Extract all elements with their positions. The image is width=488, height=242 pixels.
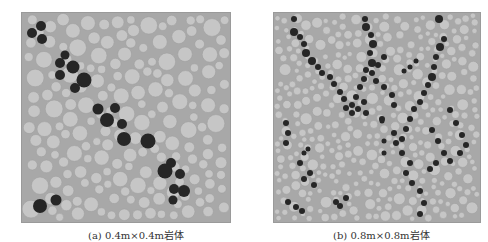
particle-packing-b	[274, 13, 480, 222]
caption-a: (a) 0.4m×0.4m岩体	[88, 227, 184, 242]
particle-panel-a	[21, 12, 231, 223]
caption-b: (b) 0.8m×0.8m岩体	[333, 227, 430, 242]
particle-panel-b	[273, 12, 481, 223]
particle-packing-a	[22, 13, 230, 222]
